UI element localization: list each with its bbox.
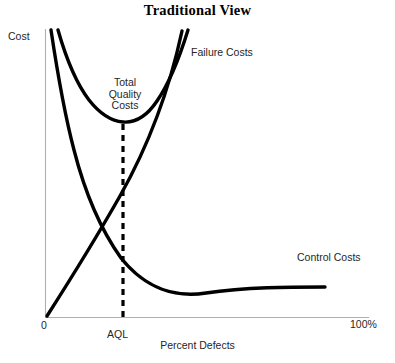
control-costs-label: Control Costs <box>297 252 361 264</box>
x-axis-label: Percent Defects <box>0 340 395 352</box>
total-quality-costs-label: Total Quality Costs <box>103 77 147 112</box>
failure-costs-label: Failure Costs <box>191 47 253 59</box>
control-costs-curve <box>51 30 325 294</box>
y-axis-label: Cost <box>8 31 30 43</box>
traditional-view-cost-chart: Traditional View Cost Failure Costs Cont… <box>0 0 395 363</box>
aql-tick-label: AQL <box>107 329 128 341</box>
x-tick-label-hundred: 100% <box>350 319 377 331</box>
x-tick-label-zero: 0 <box>41 320 47 332</box>
failure-costs-curve <box>47 31 182 316</box>
cropped-caption <box>0 355 395 363</box>
